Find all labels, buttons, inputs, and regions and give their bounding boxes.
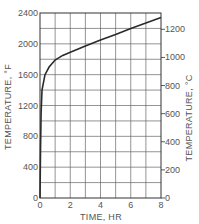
y-right-tick-label: 600: [165, 109, 180, 119]
x-tick-label: 2: [68, 200, 73, 210]
y-right-tick-label: 1000: [165, 52, 185, 62]
y-tick-label: 2400: [18, 8, 38, 18]
y-tick-label: 800: [23, 131, 38, 141]
y-right-tick-label: 200: [165, 165, 180, 175]
x-axis-label: TIME, HR: [80, 212, 122, 222]
y-axis-right-label: TEMPERATURE, °C: [184, 74, 194, 161]
x-tick-label: 6: [128, 200, 133, 210]
y-tick-label: 400: [23, 162, 38, 172]
y-tick-label: 2000: [18, 39, 38, 49]
x-axis-ticks: 02468: [37, 200, 163, 210]
y-tick-label: 1600: [18, 70, 38, 80]
y-axis-left-label: TEMPERATURE, °F: [3, 64, 13, 150]
y-right-tick-label: 400: [165, 137, 180, 147]
x-tick-label: 0: [37, 200, 42, 210]
y-right-tick-label: 800: [165, 81, 180, 91]
y-tick-label: 1200: [18, 101, 38, 111]
chart: 04008001200160020002400 0200400600800100…: [0, 0, 199, 224]
x-tick-label: 4: [98, 200, 103, 210]
y-axis-right-ticks: 020040060080010001200: [161, 24, 185, 203]
x-tick-label: 8: [158, 200, 163, 210]
y-right-tick-label: 1200: [165, 24, 185, 34]
y-axis-left-ticks: 04008001200160020002400: [18, 8, 38, 203]
y-right-tick-label: 0: [165, 193, 170, 203]
